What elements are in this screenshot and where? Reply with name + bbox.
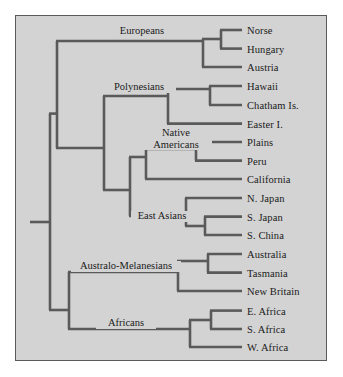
leaf-label-w-africa: W. Africa: [247, 342, 288, 353]
clade-label-africans: Africans: [96, 318, 156, 329]
leaf-label-plains: Plains: [247, 137, 273, 148]
leaf-label-tasmania: Tasmania: [247, 267, 288, 278]
leaf-label-new-britain: New Britain: [247, 286, 300, 297]
clade-label-east-asians: East Asians: [131, 211, 193, 222]
clade-label-native-americans-line2: Americans: [153, 139, 198, 150]
tree-branches: [0, 0, 343, 377]
leaf-label-n-japan: N. Japan: [247, 193, 285, 204]
leaf-label-s-china: S. China: [247, 230, 284, 241]
leaf-label-easter-i: Easter I.: [247, 118, 283, 129]
leaf-label-australia: Australia: [247, 249, 286, 260]
phylogenetic-tree-figure: Norse Hungary Austria Hawaii Chatham Is.…: [0, 0, 343, 377]
clade-label-native-americans-line1: Native: [162, 127, 190, 138]
leaf-label-hungary: Hungary: [247, 43, 284, 54]
leaf-label-austria: Austria: [247, 62, 279, 73]
leaf-label-peru: Peru: [247, 155, 267, 166]
clade-label-europeans: Europeans: [103, 26, 181, 37]
leaf-label-s-japan: S. Japan: [247, 211, 283, 222]
leaf-label-s-africa: S. Africa: [247, 324, 285, 335]
leaf-label-california: California: [247, 174, 291, 185]
leaf-label-e-africa: E. Africa: [247, 305, 286, 316]
leaf-label-chatham-is: Chatham Is.: [247, 100, 299, 111]
clade-label-polynesians: Polynesians: [102, 82, 176, 93]
leaf-label-hawaii: Hawaii: [247, 81, 278, 92]
clade-label-native-americans: Native Americans: [140, 127, 212, 150]
leaf-label-norse: Norse: [247, 25, 273, 36]
clade-label-australo-melanesians: Australo-Melanesians: [71, 261, 181, 272]
